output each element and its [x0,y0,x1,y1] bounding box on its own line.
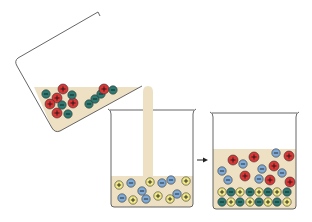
anion-blue-icon [258,165,266,173]
cation-yellow-icon [182,193,190,201]
cation-red-icon [45,99,55,109]
anion-teal-icon [109,86,117,94]
anion-teal-icon [264,188,272,196]
cation-yellow-icon [273,188,281,196]
anion-blue-icon [158,179,166,187]
pouring-stream [143,86,153,180]
cation-red-icon [68,98,78,108]
cation-red-icon [284,151,294,161]
cation-yellow-icon [218,188,226,196]
arrowhead-icon [203,158,208,163]
diagram-canvas [0,0,312,222]
anion-blue-icon [255,175,263,183]
anion-blue-icon [278,169,286,177]
anion-teal-icon [283,188,291,196]
anion-blue-icon [167,176,175,184]
anion-teal-icon [236,198,244,206]
tilted-beaker [16,12,142,132]
cation-yellow-icon [255,188,263,196]
cation-yellow-icon [129,196,137,204]
cation-red-icon [99,84,109,94]
anion-teal-icon [246,188,254,196]
cation-red-icon [269,161,279,171]
anion-blue-icon [118,194,126,202]
cation-yellow-icon [227,198,235,206]
reaction-arrow [197,158,208,163]
precipitation-diagram [0,0,312,222]
anion-blue-icon [218,167,226,175]
anion-blue-icon [224,176,232,184]
cation-red-icon [52,108,62,118]
cation-yellow-icon [236,188,244,196]
anion-blue-icon [142,195,150,203]
anion-teal-icon [273,198,281,206]
cation-yellow-icon [246,198,254,206]
cation-yellow-icon [182,177,190,185]
cation-yellow-icon [264,198,272,206]
cation-yellow-icon [154,192,162,200]
anion-blue-icon [173,190,181,198]
tilted-beaker-lip [98,12,100,16]
anion-teal-icon [58,101,66,109]
anion-teal-icon [42,90,50,98]
anion-teal-icon [64,110,72,118]
cation-red-icon [240,171,250,181]
anion-teal-icon [218,198,226,206]
result-beaker [210,112,299,209]
anion-blue-icon [272,149,280,157]
anion-blue-icon [127,179,135,187]
cation-yellow-icon [166,195,174,203]
cation-red-icon [228,155,238,165]
anion-teal-icon [68,91,76,99]
anion-blue-icon [239,160,247,168]
cation-red-icon [249,152,259,162]
cation-red-icon [58,84,68,94]
cation-yellow-icon [146,178,154,186]
anion-teal-icon [255,198,263,206]
cation-yellow-icon [115,181,123,189]
cation-yellow-icon [283,198,291,206]
anion-blue-icon [138,187,146,195]
anion-teal-icon [227,188,235,196]
cation-red-icon [265,175,275,185]
cation-red-icon [285,177,295,187]
